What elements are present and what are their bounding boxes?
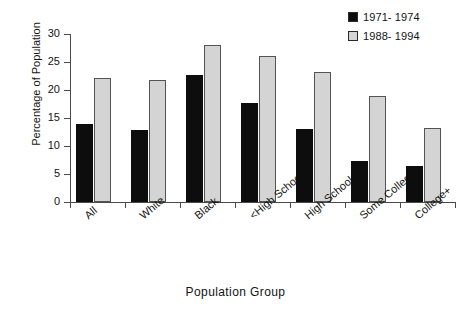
- x-axis-tick: [125, 202, 126, 208]
- bar-1-4: [314, 72, 331, 202]
- bar-0-6: [406, 166, 423, 202]
- bar-0-4: [296, 129, 313, 202]
- y-axis-line: [70, 34, 71, 202]
- x-axis-tick: [180, 202, 181, 208]
- legend-swatch-1971-1974-icon: [348, 12, 358, 22]
- bar-0-0: [76, 124, 93, 202]
- bar-1-1: [149, 80, 166, 202]
- legend-label-1971-1974: 1971- 1974: [363, 12, 420, 23]
- y-axis-tick-label: 20: [38, 84, 60, 95]
- y-axis-tick: [64, 118, 70, 119]
- y-axis-tick: [64, 146, 70, 147]
- x-axis-tick: [455, 202, 456, 208]
- legend-entry-1971-1974: 1971- 1974: [348, 10, 420, 24]
- y-axis-tick: [64, 174, 70, 175]
- y-axis-tick-label: 25: [38, 56, 60, 67]
- x-axis-title: Population Group: [0, 285, 471, 299]
- bar-0-5: [351, 161, 368, 202]
- bar-0-1: [131, 130, 148, 202]
- y-axis-tick-label: 10: [38, 140, 60, 151]
- bar-0-2: [186, 75, 203, 202]
- legend-label-1988-1994: 1988- 1994: [363, 31, 420, 42]
- x-axis-tick: [400, 202, 401, 208]
- y-axis-tick: [64, 90, 70, 91]
- y-axis-tick: [64, 62, 70, 63]
- legend-swatch-1988-1994-icon: [348, 31, 358, 41]
- bar-1-5: [369, 96, 386, 202]
- y-axis-tick-label: 0: [38, 196, 60, 207]
- x-axis-tick: [345, 202, 346, 208]
- legend-entry-1988-1994: 1988- 1994: [348, 29, 420, 43]
- bar-chart-figure: 1971- 1974 1988- 1994 Percentage of Popu…: [0, 0, 471, 311]
- x-axis-tick: [290, 202, 291, 208]
- y-axis-tick-label: 30: [38, 28, 60, 39]
- y-axis-tick-label: 15: [38, 112, 60, 123]
- bar-1-2: [204, 45, 221, 202]
- y-axis-tick: [64, 34, 70, 35]
- bar-0-3: [241, 103, 258, 202]
- x-axis-tick: [70, 202, 71, 208]
- bar-1-3: [259, 56, 276, 202]
- bar-1-0: [94, 78, 111, 202]
- x-axis-tick-label: All: [82, 204, 99, 221]
- y-axis-tick-label: 5: [38, 168, 60, 179]
- x-axis-tick: [235, 202, 236, 208]
- chart-legend: 1971- 1974 1988- 1994: [348, 10, 420, 43]
